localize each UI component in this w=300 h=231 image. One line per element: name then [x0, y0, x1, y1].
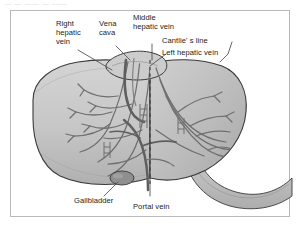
- label-vena-cava: Vena cava: [99, 19, 117, 37]
- label-cantlies-line: Cantlie' s line: [162, 36, 208, 45]
- anatomy-illustration: [0, 0, 300, 231]
- gallbladder-shape: [110, 171, 134, 185]
- liver-superior-ridge: [106, 51, 167, 80]
- label-middle-hepatic-vein: Middle hepatic vein: [133, 13, 174, 31]
- label-portal-vein: Portal vein: [133, 202, 169, 211]
- liver-left-lobe: [150, 60, 246, 180]
- label-left-hepatic-vein: Left hepatic vein: [162, 48, 218, 57]
- figure-page: — — —— — ——: [0, 0, 300, 231]
- label-gallbladder: Gallbladder: [74, 196, 113, 205]
- label-right-hepatic-vein: Right hepatic vein: [56, 19, 81, 47]
- leader-cantlies-line: [220, 42, 232, 62]
